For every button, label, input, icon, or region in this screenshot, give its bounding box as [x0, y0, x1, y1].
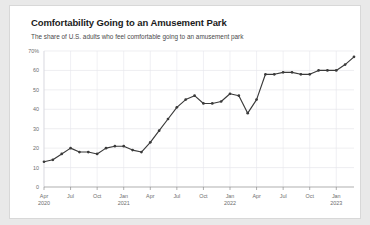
y-axis-tick-label: 20: [33, 145, 39, 151]
data-point-marker: [114, 145, 117, 148]
data-point-marker: [122, 145, 125, 148]
data-point-marker: [43, 160, 46, 163]
data-point-marker: [282, 71, 285, 74]
data-point-marker: [78, 151, 81, 154]
data-point-marker: [202, 102, 205, 105]
data-point-marker: [211, 102, 214, 105]
y-axis-tick-label: 30: [33, 126, 39, 132]
data-point-marker: [344, 63, 347, 66]
data-point-marker: [140, 151, 143, 154]
data-point-marker: [87, 151, 90, 154]
data-point-marker: [52, 158, 55, 161]
data-point-marker: [176, 106, 179, 109]
data-point-marker: [167, 118, 170, 121]
chart-plot-area: 010203040506070%Apr2020JulOctJan2021AprJ…: [10, 6, 362, 220]
data-point-marker: [131, 149, 134, 152]
x-axis-tick-label: Jan: [332, 193, 341, 199]
y-axis-tick-label: 10: [33, 165, 39, 171]
data-point-marker: [291, 71, 294, 74]
x-axis-tick-label: Apr: [146, 193, 155, 199]
x-axis-tick-label: Jul: [67, 193, 74, 199]
data-point-marker: [273, 73, 276, 76]
data-point-marker: [246, 112, 249, 115]
x-axis-tick-label: Apr: [252, 193, 261, 199]
x-axis-tick-label-year: 2020: [38, 200, 50, 206]
y-axis-tick-label: 0: [36, 184, 39, 190]
data-point-marker: [69, 147, 72, 150]
data-point-marker: [96, 153, 99, 156]
x-axis-tick-label: Oct: [306, 193, 315, 199]
line-chart-svg: 010203040506070%Apr2020JulOctJan2021AprJ…: [10, 6, 362, 220]
data-point-marker: [229, 92, 232, 95]
data-point-marker: [220, 100, 223, 103]
chart-card: Comfortability Going to an Amusement Par…: [9, 5, 361, 219]
data-point-marker: [255, 98, 258, 101]
x-axis-tick-label: Jan: [119, 193, 128, 199]
x-axis-tick-label-year: 2023: [330, 200, 342, 206]
data-point-marker: [300, 73, 303, 76]
data-point-marker: [184, 98, 187, 101]
data-point-marker: [193, 94, 196, 97]
data-point-marker: [105, 147, 108, 150]
data-point-marker: [264, 73, 267, 76]
y-axis-tick-label: 50: [33, 87, 39, 93]
data-point-marker: [317, 69, 320, 72]
y-axis-tick-label: 40: [33, 106, 39, 112]
data-point-marker: [335, 69, 338, 72]
data-point-marker: [60, 153, 63, 156]
data-point-marker: [238, 94, 241, 97]
x-axis-tick-label: Oct: [199, 193, 208, 199]
x-axis-tick-label: Jul: [280, 193, 287, 199]
x-axis-tick-label-year: 2022: [224, 200, 236, 206]
y-axis-tick-label: 70%: [28, 48, 39, 54]
x-axis-tick-label-year: 2021: [118, 200, 130, 206]
x-axis-tick-label: Jan: [226, 193, 235, 199]
data-point-marker: [149, 141, 152, 144]
data-point-marker: [308, 73, 311, 76]
data-point-marker: [158, 129, 161, 132]
data-point-marker: [353, 55, 356, 58]
y-axis-tick-label: 60: [33, 67, 39, 73]
x-axis-tick-label: Jul: [173, 193, 180, 199]
x-axis-tick-label: Oct: [93, 193, 102, 199]
data-point-marker: [326, 69, 329, 72]
x-axis-tick-label: Apr: [40, 193, 49, 199]
